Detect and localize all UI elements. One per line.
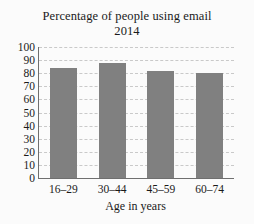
x-axis-tick-label: 30–44 [98,183,127,195]
bar [50,68,77,178]
chart-title-line-2: 2014 [0,24,254,39]
bars-layer [39,47,234,178]
y-axis-tick-label: 50 [24,108,36,120]
y-axis-tick-label: 0 [29,173,35,185]
chart-title: Percentage of people using email 2014 [0,9,254,39]
y-axis-tick-label: 30 [24,134,36,146]
chart-title-line-1: Percentage of people using email [42,9,211,23]
y-axis-tick-label: 60 [24,95,36,107]
bar [147,71,174,178]
x-axis-tick-label: 45–59 [147,183,176,195]
bar [196,73,223,178]
y-axis-tick-label: 100 [18,42,35,54]
x-axis-tick-label: 16–29 [49,183,78,195]
plot-area: 0102030405060708090100 16–2930–4445–5960… [38,47,234,179]
y-axis-tick-label: 80 [24,68,36,80]
y-axis-tick-label: 70 [24,82,36,94]
y-axis-tick-label: 40 [24,121,36,133]
x-axis-tick-label: 60–74 [195,183,224,195]
y-axis-tick-label: 10 [24,160,36,172]
bar [99,63,126,178]
y-axis-tick-label: 20 [24,147,36,159]
y-axis-tick-label: 90 [24,55,36,67]
gridline: 0 [39,178,234,179]
x-axis-title: Age in years [38,199,233,213]
bar-chart: Percentage of people using email 2014 01… [0,0,254,224]
